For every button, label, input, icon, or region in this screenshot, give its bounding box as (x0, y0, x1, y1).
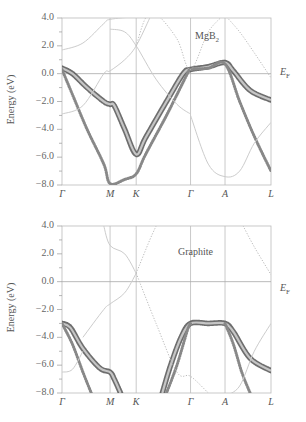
y-tick-label: 0.0 (14, 275, 54, 286)
kpoint-label: M (106, 188, 114, 199)
y-tick-label: 4.0 (14, 11, 54, 22)
kpoint-label: L (268, 188, 274, 199)
y-tick-label: 2.0 (14, 39, 54, 50)
fermi-level-label: EF (280, 66, 290, 80)
y-tick-label: −4.0 (14, 122, 54, 133)
fermi-sub: F (286, 72, 290, 80)
kpoint-label: Γ (188, 188, 194, 199)
kpoint-label: Γ (59, 396, 65, 407)
y-tick-label: −6.0 (14, 358, 54, 369)
y-tick-label: −2.0 (14, 303, 54, 314)
kpoint-label: L (268, 396, 274, 407)
kpoint-label: Γ (59, 188, 65, 199)
graphite-band-panel: 4.02.00.0−2.0−4.0−6.0−8.0ΓMKΓAL Energy (… (0, 208, 306, 418)
material-name: MgB (195, 30, 216, 41)
band-curve (136, 222, 158, 273)
band-curve (62, 323, 121, 393)
band-curve (62, 14, 167, 50)
y-tick-label: 4.0 (14, 219, 54, 230)
kpoint-label: M (106, 396, 114, 407)
y-axis-label: Energy (eV) (5, 278, 16, 338)
kpoint-label: K (133, 188, 140, 199)
y-axis-label: Energy (eV) (5, 70, 16, 130)
y-tick-label: −8.0 (14, 386, 54, 397)
y-tick-label: 2.0 (14, 247, 54, 258)
kpoint-label: A (222, 396, 228, 407)
fermi-sub: F (286, 288, 290, 296)
band-curve (167, 323, 191, 393)
y-tick-label: −4.0 (14, 330, 54, 341)
band-curve (242, 223, 271, 274)
kpoint-label: A (222, 188, 228, 199)
band-curve (104, 226, 136, 273)
material-label-graphite: Graphite (178, 246, 213, 257)
y-tick-label: 0.0 (14, 67, 54, 78)
material-subscript: 2 (216, 36, 220, 44)
kpoint-label: Γ (188, 396, 194, 407)
y-tick-label: −8.0 (14, 178, 54, 189)
material-label-mgb2: MgB2 (195, 30, 219, 44)
kpoint-label: K (133, 396, 140, 407)
y-tick-label: −6.0 (14, 150, 54, 161)
y-tick-label: −2.0 (14, 95, 54, 106)
band-curve (83, 273, 136, 337)
mgb2-band-panel: 4.02.00.0−2.0−4.0−6.0−8.0ΓMKΓAL Energy (… (0, 0, 306, 210)
fermi-level-label: EF (280, 282, 290, 296)
